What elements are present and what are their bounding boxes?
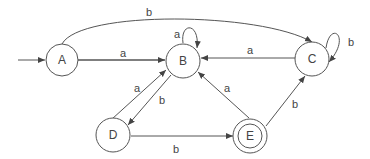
- state-label: C: [308, 52, 317, 66]
- state-label: B: [179, 54, 187, 68]
- edge-e-to-b: a: [198, 72, 249, 118]
- edge-label: a: [224, 82, 231, 94]
- automaton-diagram: a b a a b a b b a b: [0, 0, 370, 159]
- edge-a-to-c: b: [62, 6, 312, 44]
- edge-e-to-c: b: [266, 76, 305, 126]
- state-label: D: [109, 128, 118, 142]
- state-b: B: [166, 44, 200, 78]
- edge-label: a: [247, 44, 254, 56]
- edge-label: b: [146, 6, 152, 18]
- state-a: A: [46, 44, 78, 76]
- edge-label: a: [174, 28, 181, 40]
- state-e-accepting: E: [233, 119, 267, 153]
- edge-label: b: [348, 36, 354, 48]
- edge-c-to-b: a: [201, 44, 296, 58]
- edge-label: b: [292, 98, 298, 110]
- edge-label: b: [159, 94, 165, 106]
- edge-a-to-b: a: [78, 47, 165, 60]
- edge-d-to-e: b: [131, 136, 233, 155]
- edge-label: b: [173, 143, 179, 155]
- state-c: C: [295, 42, 329, 76]
- state-d: D: [96, 118, 130, 152]
- edge-label: a: [134, 82, 141, 94]
- edge-c-self-loop: b: [326, 33, 354, 62]
- edge-label: a: [120, 47, 127, 59]
- state-label: E: [246, 129, 254, 143]
- state-label: A: [58, 53, 66, 67]
